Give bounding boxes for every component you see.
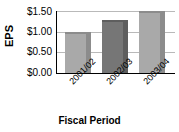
x-axis-tick-labels: 2001/02 2002/03 2003/04: [56, 74, 174, 108]
y-tick-label: $1.50: [16, 7, 52, 17]
y-tick-label: $1.00: [16, 27, 52, 37]
y-tick-label: $0.00: [16, 68, 52, 78]
bar-top-edge: [65, 32, 91, 34]
bar-top-edge: [102, 20, 128, 22]
bar-chart: EPS $1.50 $1.00 $0.50 $0.00: [0, 0, 179, 132]
bar-top-edge: [139, 11, 165, 13]
y-axis-tick-labels: $1.50 $1.00 $0.50 $0.00: [14, 0, 52, 132]
y-tick-label: $0.50: [16, 47, 52, 57]
x-axis-title: Fiscal Period: [0, 115, 179, 126]
